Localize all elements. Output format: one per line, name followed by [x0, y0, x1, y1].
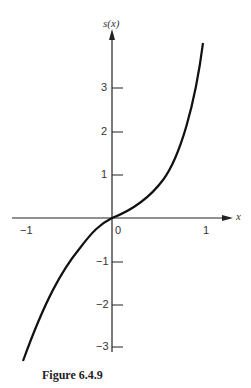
x-tick-label-1: 1	[203, 225, 209, 236]
y-axis-arrowhead-icon	[109, 29, 115, 40]
y-tick-label-1: 1	[101, 169, 107, 180]
x-tick-label-0: 0	[115, 225, 121, 236]
figure-plot	[0, 0, 251, 388]
x-axis-arrowhead-icon	[222, 215, 233, 221]
y-axis-label: s(x)	[103, 18, 120, 29]
figure-caption: Figure 6.4.9	[42, 368, 103, 383]
y-tick-label-neg3: −3	[96, 341, 109, 352]
curve-s-of-x	[23, 43, 203, 361]
y-tick-label-3: 3	[101, 82, 107, 93]
y-tick-label-neg2: −2	[96, 299, 109, 310]
y-tick-label-2: 2	[101, 126, 107, 137]
x-tick-label-neg1: −1	[20, 225, 33, 236]
x-axis-label: x	[236, 211, 241, 222]
y-tick-label-neg1: −1	[96, 256, 109, 267]
